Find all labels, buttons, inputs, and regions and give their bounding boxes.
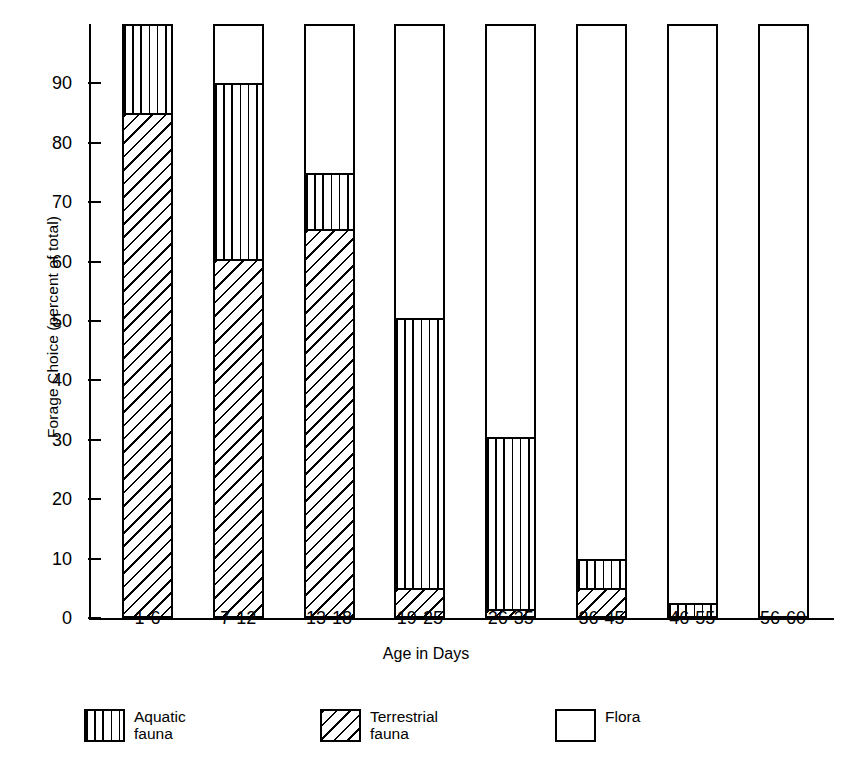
bar-19-25[interactable] [394, 24, 445, 618]
y-axis-tick [88, 142, 101, 144]
y-axis-tick-label: 90 [12, 74, 72, 92]
bar-26-35[interactable] [485, 24, 536, 618]
y-axis-tick [88, 82, 101, 84]
bar-segment-flora[interactable] [394, 24, 445, 318]
y-axis-tick-label: 30 [12, 431, 72, 449]
y-axis-tick [88, 498, 101, 500]
bar-13-18[interactable] [304, 24, 355, 618]
x-axis-tick-label-56-60: 56-60 [728, 608, 838, 629]
y-axis-tick-label: 50 [12, 312, 72, 330]
legend-item-flora[interactable]: Flora [555, 708, 640, 742]
bar-56-60[interactable] [758, 24, 809, 618]
bar-segment-flora[interactable] [485, 24, 536, 437]
bar-7-12[interactable] [213, 24, 264, 618]
bar-segment-aquatic-fauna[interactable] [576, 559, 627, 589]
bar-segment-aquatic-fauna[interactable] [213, 83, 264, 258]
bar-segment-flora[interactable] [576, 24, 627, 559]
y-axis-tick-label: 20 [12, 490, 72, 508]
plot-area: 0102030405060708090 [89, 24, 834, 618]
bar-segment-terrestrial-fauna[interactable] [304, 229, 355, 618]
y-axis-tick [88, 201, 101, 203]
y-axis-tick-label: 70 [12, 193, 72, 211]
bar-segment-aquatic-fauna[interactable] [122, 24, 173, 113]
x-axis-title: Age in Days [0, 645, 852, 663]
bar-segment-aquatic-fauna[interactable] [485, 437, 536, 609]
bar-segment-aquatic-fauna[interactable] [304, 173, 355, 229]
bar-segment-aquatic-fauna[interactable] [394, 318, 445, 588]
y-axis-tick [88, 558, 101, 560]
bar-1-6[interactable] [122, 24, 173, 618]
bar-36-45[interactable] [576, 24, 627, 618]
y-axis-tick [88, 379, 101, 381]
bar-segment-flora[interactable] [667, 24, 718, 603]
bar-segment-flora[interactable] [758, 24, 809, 618]
y-axis-tick [88, 320, 101, 322]
legend-label: Flora [605, 708, 640, 725]
y-axis-tick [88, 439, 101, 441]
y-axis-tick-label: 0 [12, 609, 72, 627]
bar-segment-flora[interactable] [213, 24, 264, 83]
y-axis-tick-label: 80 [12, 134, 72, 152]
y-axis-tick [88, 261, 101, 263]
legend-swatch-vertical-lines [84, 709, 125, 742]
bar-46-55[interactable] [667, 24, 718, 618]
legend-label: Terrestrial fauna [370, 708, 438, 743]
chart-legend: Aquatic faunaTerrestrial faunaFlora [0, 700, 852, 760]
bar-segment-terrestrial-fauna[interactable] [213, 259, 264, 618]
legend-label: Aquatic fauna [134, 708, 186, 743]
y-axis-tick-label: 40 [12, 371, 72, 389]
bar-segment-flora[interactable] [304, 24, 355, 173]
y-axis-tick-label: 10 [12, 550, 72, 568]
bar-segment-terrestrial-fauna[interactable] [122, 113, 173, 618]
legend-item-aquatic-fauna[interactable]: Aquatic fauna [84, 708, 186, 743]
legend-swatch-empty [555, 709, 596, 742]
y-axis-tick-label: 60 [12, 253, 72, 271]
legend-item-terrestrial-fauna[interactable]: Terrestrial fauna [320, 708, 438, 743]
legend-swatch-diagonal-hatch [320, 709, 361, 742]
forage-choice-stacked-bar-chart: Forage Choice (percent of total) 0102030… [0, 0, 852, 768]
